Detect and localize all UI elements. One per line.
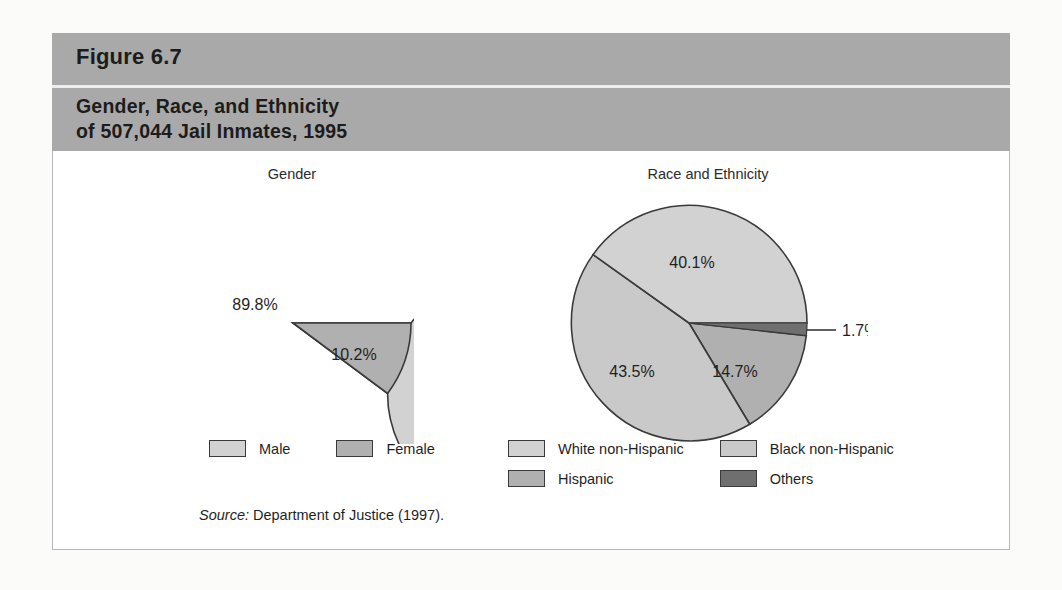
legend-label-others: Others <box>770 471 814 487</box>
legend-item-black-non-hispanic: Black non-Hispanic <box>720 440 894 457</box>
gender-label-male: 89.8% <box>232 296 277 313</box>
figure-title-line-1: Gender, Race, and Ethnicity <box>76 94 347 119</box>
figure-number: Figure 6.7 <box>76 44 182 70</box>
legend-swatch-white-non-hispanic <box>508 440 545 457</box>
race-label-hispanic: 43.5% <box>609 363 654 380</box>
legend-item-female: Female <box>336 440 434 457</box>
race-legend: White non-Hispanic Black non-Hispanic Hi… <box>508 440 894 487</box>
legend-swatch-black-non-hispanic <box>720 440 757 457</box>
race-label-white: 40.1% <box>669 254 714 271</box>
race-label-others: 1.7% <box>842 322 868 339</box>
legend-label-white-non-hispanic: White non-Hispanic <box>558 441 684 457</box>
legend-swatch-others <box>720 470 757 487</box>
legend-item-white-non-hispanic: White non-Hispanic <box>508 440 684 457</box>
header-divider <box>52 85 1010 88</box>
source-prefix: Source: <box>199 507 249 523</box>
gender-label-female: 10.2% <box>331 346 376 363</box>
source-text: Department of Justice (1997). <box>253 507 444 523</box>
chart-body: Gender 89.8% 10.2% Race and Ethnicity 40… <box>53 152 1009 549</box>
legend-item-hispanic: Hispanic <box>508 470 684 487</box>
race-chart-caption: Race and Ethnicity <box>618 166 798 182</box>
legend-label-black-non-hispanic: Black non-Hispanic <box>770 441 894 457</box>
legend-label-hispanic: Hispanic <box>558 471 614 487</box>
gender-chart-caption: Gender <box>232 166 352 182</box>
legend-label-female: Female <box>386 441 434 457</box>
figure-title: Gender, Race, and Ethnicity of 507,044 J… <box>76 94 347 144</box>
legend-label-male: Male <box>259 441 290 457</box>
figure-title-line-2: of 507,044 Jail Inmates, 1995 <box>76 119 347 144</box>
legend-swatch-hispanic <box>508 470 545 487</box>
source-line: Source: Department of Justice (1997). <box>199 507 444 523</box>
gender-pie-chart: 89.8% 10.2% <box>172 202 414 444</box>
race-pie-chart: 40.1% 43.5% 14.7% 1.7% <box>568 202 868 444</box>
gender-legend: Male Female <box>209 440 435 457</box>
legend-item-male: Male <box>209 440 290 457</box>
legend-item-others: Others <box>720 470 894 487</box>
race-label-black: 14.7% <box>712 363 757 380</box>
legend-swatch-female <box>336 440 373 457</box>
legend-swatch-male <box>209 440 246 457</box>
